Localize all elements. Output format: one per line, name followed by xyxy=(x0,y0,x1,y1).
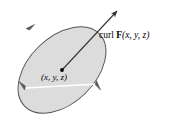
circulation-arrowhead-right xyxy=(95,81,100,91)
oriented-disk xyxy=(2,10,123,120)
base-point-dot xyxy=(60,68,64,72)
curl-diagram-svg xyxy=(0,0,170,120)
curl-figure-container: curl F(x, y, z) (x, y, z) xyxy=(0,0,170,120)
circulation-arrowhead-top-left xyxy=(26,25,34,31)
